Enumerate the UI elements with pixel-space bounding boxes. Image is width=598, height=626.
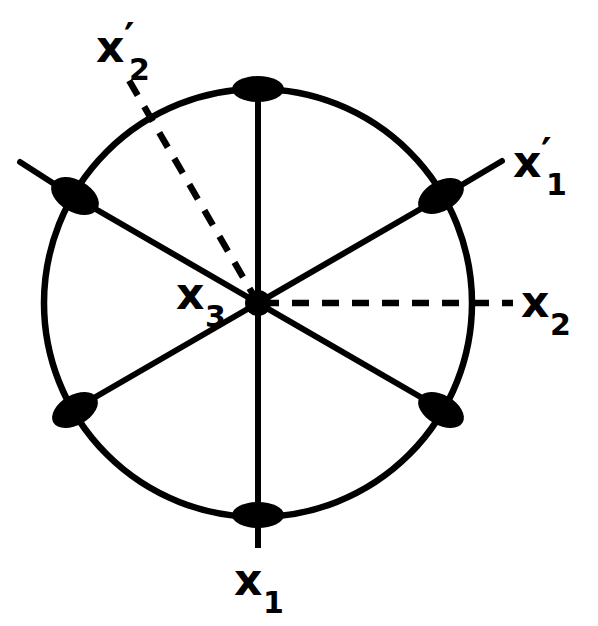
axis-label-x1-prime-sub: 1 bbox=[546, 167, 567, 202]
axis-label-x2: x 2 bbox=[521, 276, 571, 342]
axis-label-x1-sub: 1 bbox=[263, 585, 284, 620]
node-bottom bbox=[232, 502, 284, 528]
lattice-axis-diagram: x ′ 2 x ′ 1 x 2 x 3 x 1 bbox=[0, 0, 598, 626]
axis-label-x2-base: x bbox=[521, 276, 549, 327]
node-upper-left bbox=[44, 169, 105, 223]
axis-label-x1: x 1 bbox=[234, 554, 284, 620]
axis-label-x1-prime-base: x bbox=[513, 136, 541, 187]
axis-label-x2-prime-base: x bbox=[96, 21, 124, 72]
node-lower-right bbox=[412, 385, 470, 436]
axis-label-x3-sub: 3 bbox=[205, 299, 226, 334]
node-lower-left bbox=[46, 385, 104, 436]
node-top bbox=[232, 76, 284, 102]
axis-label-x2-prime-sub: 2 bbox=[129, 52, 150, 87]
node-upper-right bbox=[412, 171, 470, 222]
axis-label-x3-base: x bbox=[176, 268, 204, 319]
axis-label-x1-prime: x ′ 1 bbox=[513, 130, 567, 202]
center-hub-node bbox=[245, 290, 271, 316]
axis-label-x1-base: x bbox=[234, 554, 262, 605]
axis-label-x2-prime: x ′ 2 bbox=[96, 15, 150, 87]
figure-root: x ′ 2 x ′ 1 x 2 x 3 x 1 bbox=[0, 0, 598, 626]
axis-label-x2-sub: 2 bbox=[550, 307, 571, 342]
